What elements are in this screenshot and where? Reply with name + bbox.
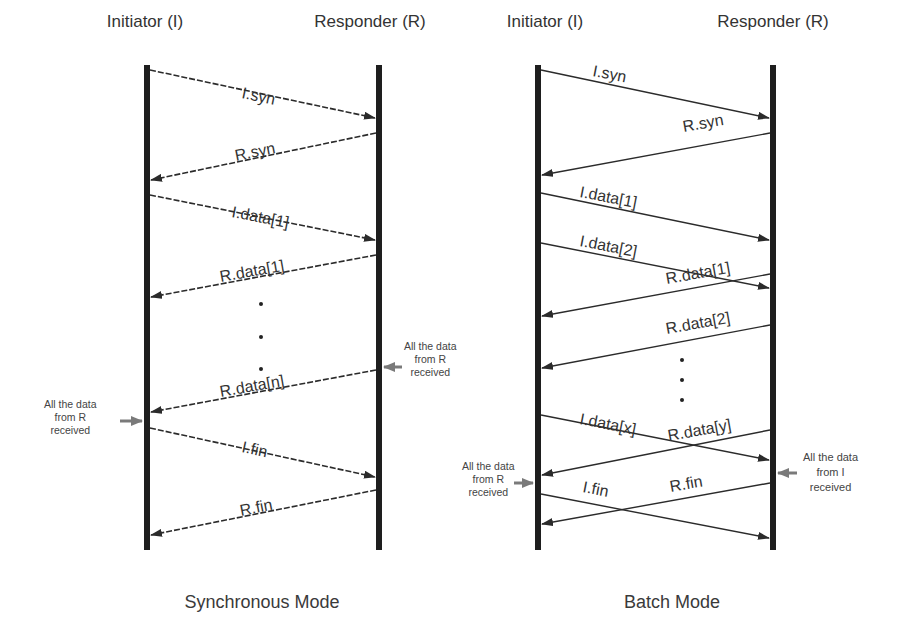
note-line: received (404, 366, 457, 379)
note-line: from I (803, 465, 858, 480)
note-line: from R (404, 353, 457, 366)
diagram-graphics (0, 0, 905, 644)
batch-msg-r-data1-arrow (542, 274, 770, 316)
sync-ellipsis-dot (259, 302, 263, 306)
batch-mode-title: Batch Mode (624, 592, 720, 613)
sync-ellipsis-dot (259, 367, 263, 371)
sync-note-initiator: All the data from R received (44, 398, 97, 437)
note-line: All the data (803, 450, 858, 465)
sync-responder-lifeline (376, 65, 382, 550)
batch-msg-i-syn-arrow (541, 70, 769, 118)
sync-initiator-label: Initiator (I) (107, 12, 184, 32)
note-line: All the data (44, 398, 97, 411)
note-line: All the data (404, 340, 457, 353)
note-line: All the data (462, 460, 515, 473)
batch-msg-r-syn-arrow (542, 133, 770, 175)
note-line: received (462, 486, 515, 499)
sync-mode-title: Synchronous Mode (184, 592, 339, 613)
batch-msg-i-data2-arrow (541, 243, 769, 288)
batch-responder-lifeline (770, 65, 776, 550)
batch-msg-r-data2-arrow (542, 325, 770, 368)
sequence-diagram-figure: Initiator (I) Responder (R) I.syn R.syn … (0, 0, 905, 644)
batch-note-initiator: All the data from R received (462, 460, 515, 499)
sync-initiator-lifeline (144, 65, 150, 550)
batch-msg-r-datay-arrow (542, 430, 770, 475)
batch-diagram (514, 65, 797, 550)
batch-msg-r-fin-arrow (542, 483, 770, 524)
note-line: received (44, 424, 97, 437)
note-line: from R (462, 473, 515, 486)
note-line: received (803, 480, 858, 495)
sync-note-responder: All the data from R received (404, 340, 457, 379)
batch-msg-i-fin-arrow (541, 494, 769, 538)
batch-ellipsis-dot (680, 398, 684, 402)
batch-ellipsis-dot (680, 358, 684, 362)
batch-responder-label: Responder (R) (717, 12, 829, 32)
batch-initiator-lifeline (535, 65, 541, 550)
batch-note-responder: All the data from I received (803, 450, 858, 495)
sync-ellipsis-dot (259, 335, 263, 339)
batch-ellipsis-dot (680, 378, 684, 382)
note-line: from R (44, 411, 97, 424)
batch-initiator-label: Initiator (I) (507, 12, 584, 32)
sync-diagram (120, 65, 402, 550)
sync-responder-label: Responder (R) (314, 12, 426, 32)
batch-msg-i-data1-arrow (541, 193, 769, 240)
